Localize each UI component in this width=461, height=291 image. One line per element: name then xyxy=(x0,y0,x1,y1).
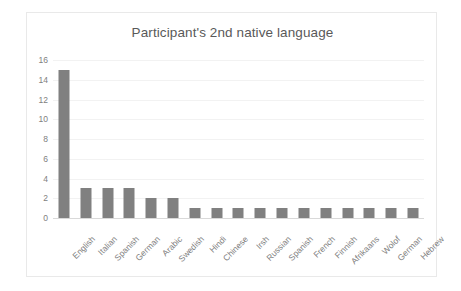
x-label-slot: Swedish xyxy=(188,232,210,288)
bar-slot xyxy=(97,60,119,218)
chart-frame: Participant's 2nd native language 024681… xyxy=(26,12,437,277)
y-tick-label: 14 xyxy=(39,75,48,85)
x-label-slot: Afrikaans xyxy=(363,232,385,288)
bar-slot xyxy=(249,60,271,218)
bar xyxy=(80,188,91,218)
bar-slot xyxy=(402,60,424,218)
chart-title: Participant's 2nd native language xyxy=(27,25,438,40)
bar xyxy=(168,198,179,218)
bar-slot xyxy=(184,60,206,218)
bar-slot xyxy=(162,60,184,218)
y-tick-label: 6 xyxy=(43,154,48,164)
x-label-slot: Spanish xyxy=(297,232,319,288)
bar xyxy=(342,208,353,218)
x-label-slot: German xyxy=(144,232,166,288)
bar-slot xyxy=(293,60,315,218)
y-tick-label: 2 xyxy=(43,193,48,203)
bar-slot xyxy=(337,60,359,218)
bar xyxy=(102,188,113,218)
x-tick-label: English xyxy=(70,234,97,261)
bar xyxy=(277,208,288,218)
y-tick-label: 10 xyxy=(39,114,48,124)
bar xyxy=(408,208,419,218)
x-label-slot: French xyxy=(319,232,341,288)
bar-slot xyxy=(118,60,140,218)
x-label-slot: Hebrew xyxy=(428,232,450,288)
bar xyxy=(124,188,135,218)
bar xyxy=(320,208,331,218)
y-tick-label: 0 xyxy=(43,213,48,223)
gridline xyxy=(53,218,424,219)
bar-slot xyxy=(140,60,162,218)
x-label-slot: English xyxy=(79,232,101,288)
bar-slot xyxy=(206,60,228,218)
x-tick-label: Irsh xyxy=(254,234,271,251)
bar-slot xyxy=(359,60,381,218)
y-tick-label: 16 xyxy=(39,55,48,65)
y-tick-label: 4 xyxy=(43,174,48,184)
bar xyxy=(298,208,309,218)
bar xyxy=(146,198,157,218)
bar xyxy=(364,208,375,218)
x-axis-tick-labels: EnglishItalianSpanishGermanArabicSwedish… xyxy=(79,232,450,288)
bar-slot xyxy=(380,60,402,218)
bar xyxy=(58,70,69,218)
bar xyxy=(211,208,222,218)
plot-area: 0246810121416 xyxy=(53,60,424,218)
bar xyxy=(233,208,244,218)
bar-slot xyxy=(75,60,97,218)
y-tick-label: 8 xyxy=(43,134,48,144)
bar xyxy=(255,208,266,218)
bar-slot xyxy=(53,60,75,218)
bar xyxy=(386,208,397,218)
bar xyxy=(189,208,200,218)
bar-series xyxy=(53,60,424,218)
bar-slot xyxy=(315,60,337,218)
x-label-slot: Chinese xyxy=(232,232,254,288)
bar-slot xyxy=(271,60,293,218)
bar-slot xyxy=(228,60,250,218)
y-tick-label: 12 xyxy=(39,95,48,105)
